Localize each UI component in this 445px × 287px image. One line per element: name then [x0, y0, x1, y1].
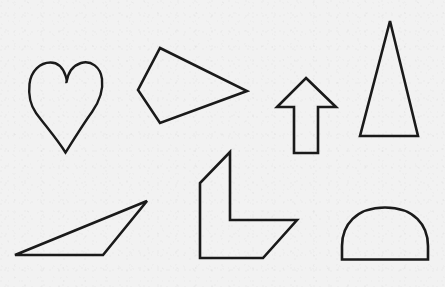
shape-svg-layer: [0, 0, 445, 287]
shapes-canvas: [0, 0, 445, 287]
canvas-background: [0, 0, 445, 287]
